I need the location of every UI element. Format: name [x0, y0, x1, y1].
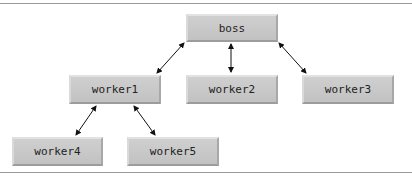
node-label: worker2 [209, 83, 255, 96]
node-label: worker3 [325, 83, 371, 96]
node-worker1: worker1 [69, 75, 161, 104]
node-label: boss [219, 22, 246, 35]
edge-worker1-worker4 [76, 106, 96, 135]
edge-worker1-worker5 [134, 106, 155, 135]
node-label: worker4 [34, 145, 80, 158]
node-worker2: worker2 [186, 75, 278, 104]
node-label: worker5 [150, 145, 196, 158]
node-worker5: worker5 [127, 137, 219, 166]
edge-boss-worker3 [279, 43, 306, 73]
edge-boss-worker1 [157, 43, 184, 73]
node-boss: boss [186, 14, 278, 42]
node-label: worker1 [92, 83, 138, 96]
node-worker3: worker3 [302, 75, 394, 104]
node-worker4: worker4 [12, 137, 103, 166]
